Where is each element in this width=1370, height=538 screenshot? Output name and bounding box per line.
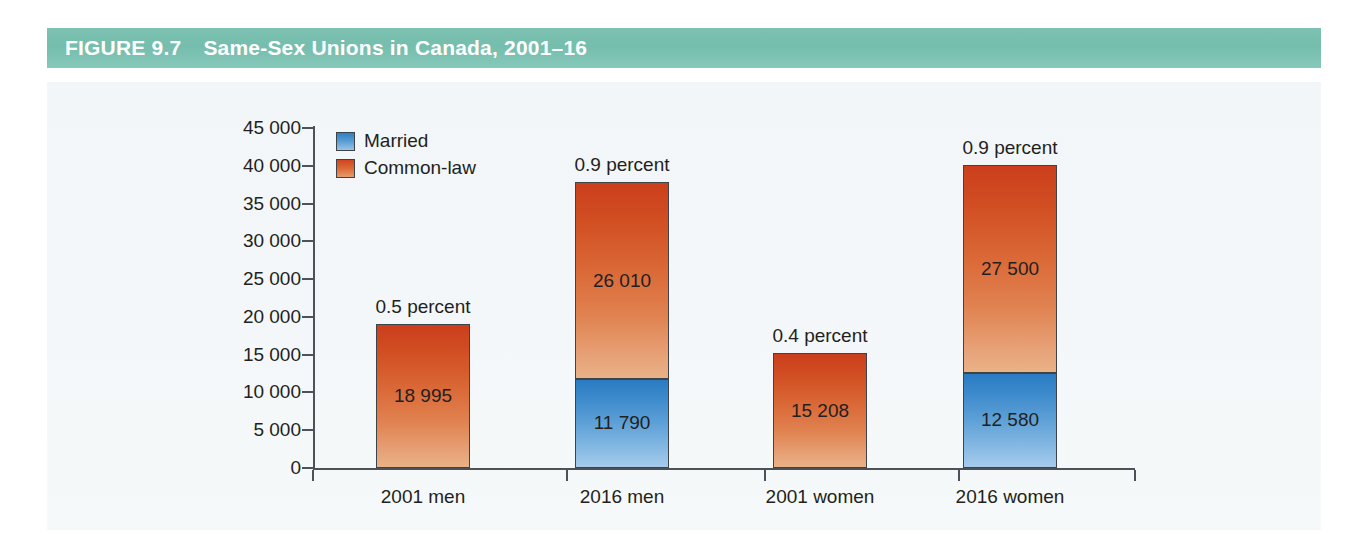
legend-label-common-law: Common-law (364, 157, 476, 179)
bar-value-label: 27 500 (981, 258, 1039, 280)
figure-9-7: FIGURE 9.7 Same-Sex Unions in Canada, 20… (0, 0, 1370, 538)
bar-group[interactable]: 12 58027 5000.9 percent (47, 82, 1321, 530)
chart-panel: 45 00040 00035 00030 00025 00020 00015 0… (47, 82, 1321, 530)
legend-swatch-married-icon (336, 132, 355, 151)
legend-item-common-law: Common-law (336, 157, 476, 179)
bar-segment-married[interactable]: 12 580 (963, 373, 1057, 468)
figure-title-band: FIGURE 9.7 Same-Sex Unions in Canada, 20… (47, 28, 1321, 68)
legend-label-married: Married (364, 130, 428, 152)
chart-legend: Married Common-law (336, 130, 476, 179)
legend-item-married: Married (336, 130, 476, 152)
plot-area: 45 00040 00035 00030 00025 00020 00015 0… (47, 82, 1321, 530)
bar-percent-annotation: 0.9 percent (962, 137, 1057, 159)
bar-value-label: 12 580 (981, 409, 1039, 431)
bar-segment-common-law[interactable]: 27 500 (963, 165, 1057, 373)
figure-number-label: FIGURE 9.7 (65, 36, 181, 60)
figure-title-text: Same-Sex Unions in Canada, 2001–16 (203, 36, 587, 60)
legend-swatch-common-law-icon (336, 159, 355, 178)
